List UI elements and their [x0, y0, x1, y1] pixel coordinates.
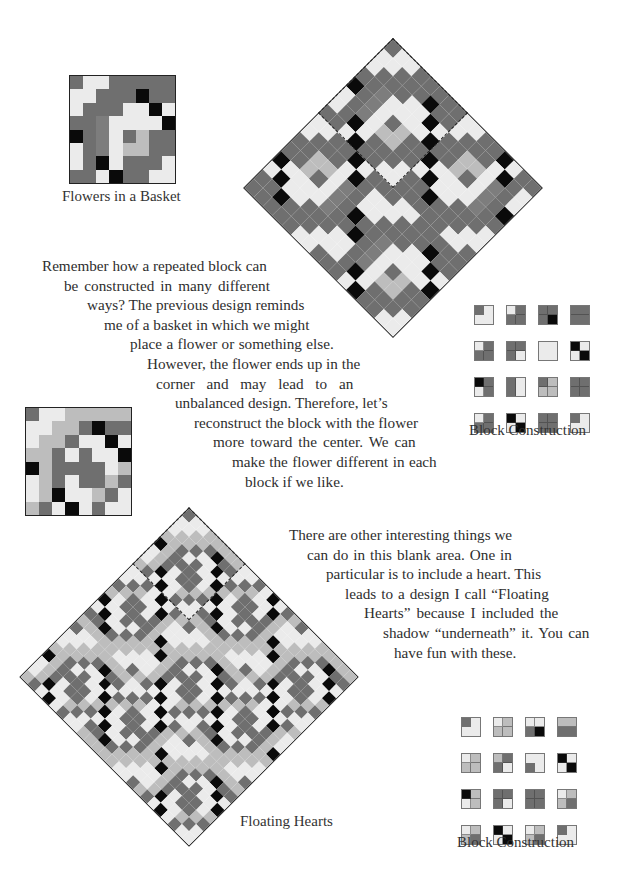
tile-quadrant	[462, 718, 471, 727]
quilt-cell	[96, 116, 109, 129]
tile-quadrant	[548, 315, 557, 324]
quilt-cell	[39, 435, 52, 448]
quilt-cell	[79, 435, 92, 448]
quilt-cell	[70, 156, 83, 169]
quilt-cell	[92, 448, 105, 461]
quilt-cell	[70, 143, 83, 156]
tile-quadrant	[558, 718, 567, 727]
flowers-in-a-basket-block	[69, 75, 176, 184]
construction-tile	[461, 789, 481, 809]
quilt-cell	[109, 116, 122, 129]
tile-quadrant	[475, 387, 484, 396]
quilt-cell	[79, 502, 92, 515]
quilt-cell	[92, 488, 105, 501]
quilt-cell	[52, 488, 65, 501]
tile-quadrant	[484, 351, 493, 360]
tile-quadrant	[526, 790, 535, 799]
quilt-cell	[109, 143, 122, 156]
tile-quadrant	[484, 387, 493, 396]
tile-quadrant	[471, 799, 480, 808]
tile-quadrant	[580, 315, 589, 324]
quilt-cell	[83, 170, 96, 183]
tile-quadrant	[507, 306, 516, 315]
quilt-cell	[52, 462, 65, 475]
quilt-cell	[136, 89, 149, 102]
quilt-cell	[52, 475, 65, 488]
tile-quadrant	[539, 387, 548, 396]
tile-quadrant	[567, 718, 576, 727]
quilt-cell	[70, 103, 83, 116]
quilt-cell	[118, 488, 131, 501]
quilt-cell	[136, 76, 149, 89]
quilt-cell	[149, 170, 162, 183]
tile-quadrant	[571, 315, 580, 324]
quilt-cell	[70, 116, 83, 129]
tile-quadrant	[558, 754, 567, 763]
quilt-cell	[149, 156, 162, 169]
quilt-cell	[162, 103, 175, 116]
tile-quadrant	[539, 306, 548, 315]
paragraph-line: place a flower or something else.	[42, 334, 437, 354]
quilt-cell	[83, 89, 96, 102]
tile-quadrant	[535, 763, 544, 772]
tile-quadrant	[535, 718, 544, 727]
quilt-cell	[65, 488, 78, 501]
construction-tile	[506, 305, 526, 325]
tile-quadrant	[516, 315, 525, 324]
quilt-cell	[79, 408, 92, 421]
quilt-cell	[123, 89, 136, 102]
quilt-cell	[149, 116, 162, 129]
quilt-cell	[118, 475, 131, 488]
tile-quadrant	[539, 378, 548, 387]
quilt-cell	[79, 462, 92, 475]
paragraph-line: can do in this blank area. One in	[289, 545, 589, 565]
construction-tile	[493, 789, 513, 809]
quilt-cell	[136, 130, 149, 143]
quilt-cell	[26, 435, 39, 448]
tile-quadrant	[571, 342, 580, 351]
quilt-cell	[92, 421, 105, 434]
paragraph-line: corner and may lead to an	[42, 374, 437, 394]
construction-tile	[461, 753, 481, 773]
tile-quadrant	[475, 351, 484, 360]
paragraph-line: me of a basket in which we might	[42, 315, 437, 335]
tile-quadrant	[462, 754, 471, 763]
quilt-cell	[26, 448, 39, 461]
flowers-in-a-basket-caption: Flowers in a Basket	[62, 188, 181, 205]
construction-tile	[474, 377, 494, 397]
paragraph-line: particular is to include a heart. This	[289, 564, 589, 584]
tile-quadrant	[535, 799, 544, 808]
quilt-cell	[105, 475, 118, 488]
tile-quadrant	[503, 754, 512, 763]
quilt-cell	[96, 130, 109, 143]
quilt-cell	[105, 408, 118, 421]
quilt-cell	[79, 448, 92, 461]
construction-tile	[557, 789, 577, 809]
tile-quadrant	[567, 799, 576, 808]
tile-quadrant	[484, 306, 493, 315]
quilt-cell	[118, 408, 131, 421]
tile-quadrant	[475, 315, 484, 324]
quilt-cell	[26, 488, 39, 501]
quilt-cell	[83, 143, 96, 156]
quilt-cell	[83, 76, 96, 89]
tile-quadrant	[539, 315, 548, 324]
paragraph-line: Hearts” because I included the	[289, 603, 589, 623]
tile-quadrant	[526, 718, 535, 727]
construction-tile	[506, 341, 526, 361]
quilt-cell	[65, 475, 78, 488]
tile-quadrant	[580, 378, 589, 387]
body-paragraph-2: There are other interesting things wecan…	[289, 525, 589, 662]
quilt-cell	[118, 435, 131, 448]
tile-quadrant	[567, 763, 576, 772]
quilt-cell	[109, 89, 122, 102]
quilt-cell	[26, 502, 39, 515]
tile-quadrant	[558, 790, 567, 799]
tile-quadrant	[462, 763, 471, 772]
quilt-cell	[136, 103, 149, 116]
tile-quadrant	[571, 378, 580, 387]
quilt-cell	[26, 421, 39, 434]
quilt-cell	[123, 76, 136, 89]
tile-quadrant	[539, 342, 548, 351]
quilt-cell	[162, 89, 175, 102]
